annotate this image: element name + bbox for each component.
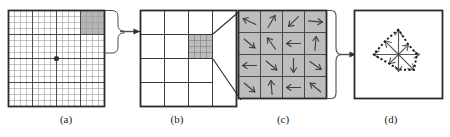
panel-a [9, 11, 105, 107]
panel-a-keypoint-dot [54, 56, 59, 61]
panel-d [355, 11, 443, 99]
panel-c-caption: (c) [263, 113, 303, 125]
connector-c-to-d [327, 11, 357, 99]
panel-a-caption: (a) [46, 113, 86, 125]
panel-d-caption: (d) [371, 113, 411, 125]
panel-c [239, 11, 327, 99]
panel-b-caption: (b) [157, 113, 197, 125]
connector-a-to-b [105, 11, 141, 54]
panel-b-grid [141, 11, 213, 107]
panel-b [141, 11, 237, 107]
